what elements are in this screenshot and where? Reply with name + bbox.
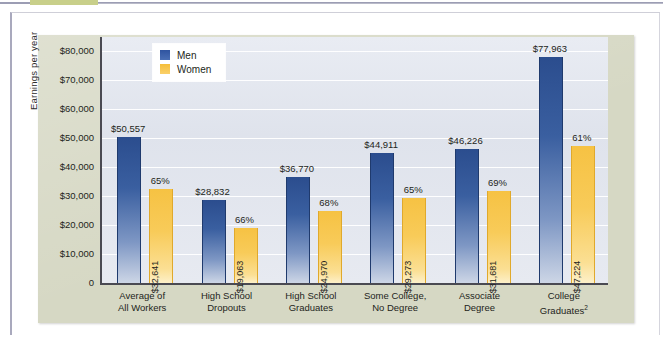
bar-value-label-men: $77,963	[533, 43, 567, 54]
bar-men	[117, 137, 141, 283]
y-axis-tick-label: $40,000	[38, 161, 94, 172]
bar-ratio-label-women: 61%	[572, 132, 591, 143]
bar-men	[370, 153, 394, 283]
bar-men	[286, 177, 310, 283]
gridline	[102, 196, 608, 197]
y-axis-tick-label: $30,000	[38, 190, 94, 201]
figure-page: Earnings per year 0$10,000$20,000$30,000…	[0, 0, 663, 340]
bar-value-label-women: $29,273	[403, 261, 413, 294]
bar-ratio-label-women: 65%	[404, 184, 423, 195]
y-axis-tick-label: $10,000	[38, 248, 94, 259]
legend-swatch-men-icon	[160, 50, 170, 60]
bar-men	[455, 149, 479, 283]
chart-legend: Men Women	[153, 44, 225, 81]
x-axis-category-label: Average ofAll Workers	[94, 290, 190, 313]
legend-swatch-women-icon	[160, 64, 170, 74]
bar-ratio-label-women: 66%	[235, 214, 254, 225]
legend-item-women: Women	[160, 62, 211, 76]
x-axis-category-label: Some College,No Degree	[347, 290, 443, 313]
gridline	[102, 167, 608, 168]
bar-value-label-men: $46,226	[448, 135, 482, 146]
gridline	[102, 138, 608, 139]
bar-value-label-men: $44,911	[364, 139, 398, 150]
bar-value-label-men: $50,557	[111, 123, 145, 134]
bar-value-label-women: $32,641	[150, 261, 160, 294]
y-axis-tick-label: $50,000	[38, 132, 94, 143]
bar-ratio-label-women: 69%	[488, 177, 507, 188]
y-axis-tick-label: $80,000	[38, 45, 94, 56]
x-axis-category-label: High SchoolGraduates	[263, 290, 359, 313]
bar-value-label-men: $28,832	[195, 186, 229, 197]
y-axis-tick-label: 0	[38, 277, 94, 288]
bar-value-label-men: $36,770	[280, 163, 314, 174]
bar-value-label-women: $47,224	[572, 261, 582, 294]
y-axis-tick-label: $70,000	[38, 74, 94, 85]
bar-value-label-women: $24,970	[319, 261, 329, 294]
page-top-rule-secondary	[98, 3, 663, 4]
legend-label-women: Women	[177, 64, 211, 75]
bar-men	[202, 200, 226, 283]
x-axis-line	[100, 283, 608, 285]
y-axis-tick-labels: 0$10,000$20,000$30,000$40,000$50,000$60,…	[38, 0, 94, 340]
gridline	[102, 254, 608, 255]
gridline	[102, 225, 608, 226]
x-axis-category-label: AssociateDegree	[431, 290, 527, 313]
bar-ratio-label-women: 65%	[151, 175, 170, 186]
x-axis-category-label: CollegeGraduates2	[516, 290, 612, 316]
bar-men	[539, 57, 563, 283]
gridline	[102, 109, 608, 110]
y-axis-tick-label: $20,000	[38, 219, 94, 230]
y-axis-tick-label: $60,000	[38, 103, 94, 114]
bar-value-label-women: $19,063	[235, 261, 245, 294]
legend-item-men: Men	[160, 48, 211, 62]
x-axis-category-label: High SchoolDropouts	[178, 290, 274, 313]
bar-ratio-label-women: 68%	[319, 197, 338, 208]
bar-value-label-women: $31,681	[488, 261, 498, 294]
legend-label-men: Men	[177, 50, 196, 61]
